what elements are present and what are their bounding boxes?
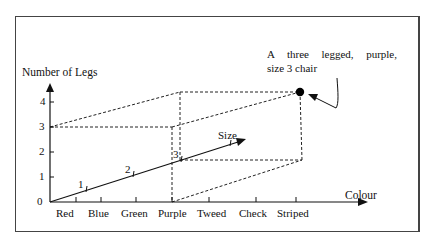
annotation-line-1: A three legged, purple, [267,48,397,60]
x-tick-green: Green [121,208,148,219]
annotation-line-2: size 3 chair [267,61,397,75]
point-annotation: A three legged, purple, size 3 chair [267,47,397,75]
x-tick-check: Check [239,208,267,219]
x-tick-purple: Purple [158,208,187,219]
z-axis [50,138,246,202]
y-axis-title: Number of Legs [22,67,97,79]
annotation-pointer [308,78,338,108]
x-tick-blue: Blue [88,208,109,219]
z-tick-3: 3 [173,149,179,160]
y-tick-1: 1 [39,171,45,182]
z-tick-1: 1 [78,179,84,190]
x-tick-striped: Striped [277,208,309,219]
z-axis-title: Size [218,130,237,141]
x-tick-red: Red [56,208,74,219]
x-axis [50,197,368,206]
z-tick-2: 2 [125,164,131,175]
x-axis-title: Colour [345,190,377,202]
y-tick-3: 3 [39,121,45,132]
data-point [296,88,304,96]
y-tick-0: 0 [37,196,43,207]
y-tick-4: 4 [40,96,46,107]
x-tick-tweed: Tweed [197,208,226,219]
y-tick-2: 2 [39,146,45,157]
y-axis [46,83,54,202]
projection-lines [50,92,302,202]
